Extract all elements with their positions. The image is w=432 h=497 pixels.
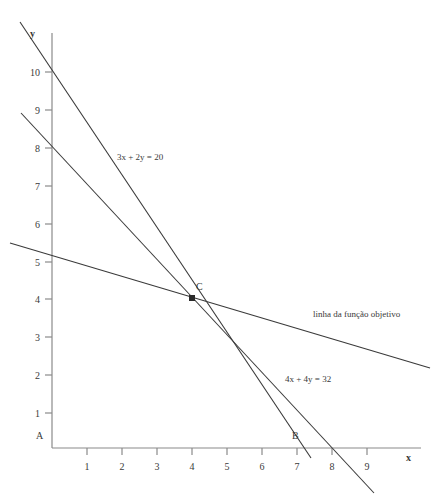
x-tick-label-8: 8 — [330, 461, 335, 472]
y-axis-ticks — [45, 72, 52, 413]
y-tick-label-1: 1 — [12, 408, 40, 419]
x-tick-label-1: 1 — [85, 461, 90, 472]
y-tick-label-4: 4 — [12, 294, 40, 305]
y-tick-label-8: 8 — [12, 143, 40, 154]
x-axis-ticks — [87, 448, 367, 455]
y-axis-title: y — [30, 28, 35, 39]
x-tick-label-6: 6 — [260, 461, 265, 472]
point-label-b: B — [292, 430, 299, 441]
series-label-3x-2y-20: 3x + 2y = 20 — [117, 152, 163, 162]
x-tick-label-4: 4 — [190, 461, 195, 472]
x-tick-label-9: 9 — [365, 461, 370, 472]
constraint-line-3x-2y-20 — [20, 22, 311, 458]
x-tick-label-2: 2 — [120, 461, 125, 472]
x-axis-title: x — [406, 452, 411, 463]
constraint-line-4x-4y-32 — [21, 113, 374, 493]
x-tick-label-7: 7 — [295, 461, 300, 472]
x-tick-label-3: 3 — [155, 461, 160, 472]
y-tick-label-7: 7 — [12, 181, 40, 192]
point-label-c: C — [196, 281, 203, 292]
y-tick-label-10: 10 — [12, 67, 40, 78]
point-label-a: A — [36, 430, 43, 441]
y-tick-label-3: 3 — [12, 332, 40, 343]
y-tick-label-6: 6 — [12, 219, 40, 230]
linear-programming-chart: y x 10 9 8 7 6 5 4 3 2 1 1 2 3 4 5 6 7 8… — [0, 0, 432, 497]
x-tick-label-5: 5 — [225, 461, 230, 472]
point-c-marker — [189, 295, 195, 301]
y-tick-label-2: 2 — [12, 370, 40, 381]
series-label-4x-4y-32: 4x + 4y = 32 — [285, 374, 331, 384]
y-tick-label-5: 5 — [12, 257, 40, 268]
series-label-objective-function: linha da função objetivo — [313, 309, 400, 319]
plot-area — [0, 0, 432, 497]
objective-function-line — [10, 243, 430, 368]
y-tick-label-9: 9 — [12, 105, 40, 116]
